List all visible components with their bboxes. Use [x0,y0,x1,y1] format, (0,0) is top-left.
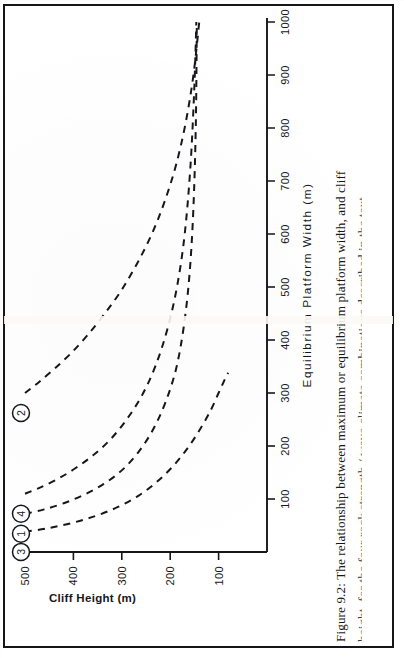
axes [25,18,267,552]
scanned-figure-page: 100 200 300 400 500 600 700 800 900 1000… [0,0,404,658]
x-tick-label: 700 [279,171,291,191]
y-tick-label: 200 [164,566,176,586]
series-marker-3: 3 [13,543,30,560]
y-axis-tick-labels: 100 200 300 400 500 [19,566,225,586]
x-tick-label: 200 [279,436,291,456]
figure-stage: 100 200 300 400 500 600 700 800 900 1000… [3,4,394,648]
x-axis-title: Equilibrium Platform Width (m) [300,183,314,388]
y-axis-ticks [25,552,219,560]
figure-caption-line-1: Figure 9.2: The relationship between max… [333,10,349,642]
series-markers: 2413 [13,405,30,561]
series-marker-label: 1 [15,531,27,537]
y-tick-label: 500 [19,566,31,586]
y-axis-title: Cliff Height (m) [49,592,136,604]
series-marker-label: 2 [15,410,27,416]
y-tick-label: 400 [67,566,79,586]
y-tick-label: 100 [213,566,225,586]
curve-series-4 [25,22,196,494]
curve-series-1 [25,22,197,514]
chart-plot-area: 100 200 300 400 500 600 700 800 900 1000… [3,4,321,648]
series-marker-2: 2 [13,405,30,422]
series-marker-1: 1 [13,525,30,542]
series-marker-label: 4 [15,511,27,517]
x-tick-label: 600 [279,224,291,244]
y-tick-label: 300 [116,566,128,586]
x-tick-label: 100 [279,489,291,509]
curve-series-2 [25,22,199,393]
x-tick-label: 500 [279,277,291,297]
chart-svg: 100 200 300 400 500 600 700 800 900 1000… [3,4,321,648]
x-tick-label: 1000 [279,9,291,35]
x-tick-label: 900 [279,65,291,85]
x-tick-label: 400 [279,330,291,350]
series-marker-4: 4 [13,505,30,522]
y-axis-title-group: Cliff Height (m) [49,592,136,604]
x-tick-label: 800 [279,118,291,138]
figure-caption-line-2: height, for the four rock strength / wav… [355,10,371,642]
series-marker-label: 3 [15,549,27,555]
data-curves [25,22,228,532]
curve-series-3 [25,373,228,532]
x-axis-ticks [267,22,275,499]
x-axis-tick-labels: 100 200 300 400 500 600 700 800 900 1000 [279,9,291,509]
x-tick-label: 300 [279,383,291,403]
